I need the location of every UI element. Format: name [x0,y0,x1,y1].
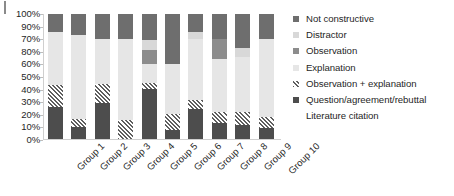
legend-item-label: Observation [306,46,357,56]
legend-swatch-observation-icon [293,48,299,54]
bar-segment [212,59,227,112]
bar-segment [188,39,203,100]
bar-segment [142,50,157,64]
bar-segment [95,39,110,84]
bar-segment [142,89,157,139]
bar-segment [118,120,133,139]
legend-item-label: Distractor [306,30,347,40]
bar-segment [71,35,86,119]
bar-segment [235,125,250,139]
y-axis-tick-label: 30% [2,97,40,107]
bar-group-7[interactable] [188,14,203,139]
bar-segment [48,32,63,86]
bar-segment [259,14,274,39]
legend-item-label: Observation + explanation [306,79,416,89]
bar-group-5[interactable] [142,14,157,139]
bar-segment [188,14,203,32]
legend-item-label: Literature citation [306,111,379,121]
bar-segment [142,40,157,50]
bar-segment [95,84,110,103]
legend-item[interactable]: Not constructive [293,11,454,27]
bar-group-2[interactable] [71,14,86,139]
bar-segment [259,39,274,117]
y-axis-tick-label: 0% [2,135,40,145]
bar-segment [95,14,110,39]
y-axis-tick-mark [40,140,43,141]
legend-swatch-observation-explanation-icon [293,81,299,87]
y-axis-tick-label: 90% [2,22,40,32]
chart-root: 100%90%70%80%60%50%40%30%20%10%0% Group … [0,0,454,196]
legend-swatch-not-constructive-icon [293,16,299,22]
y-axis-tick-label: 100% [2,9,40,19]
bar-segment [188,100,203,109]
legend-item[interactable]: Observation [293,43,454,59]
bar-segment [48,107,63,140]
bar-segment [142,64,157,83]
y-axis-tick-label: 20% [2,110,40,120]
bar-segment [165,14,180,64]
plot-area [44,14,279,139]
legend-item[interactable]: Explanation [293,60,454,76]
bar-segment [165,130,180,139]
legend-swatch-literature-icon [293,113,299,119]
legend-item-label: Not constructive [306,14,374,24]
bar-segment [259,128,274,139]
bar-group-6[interactable] [165,14,180,139]
bar-segment [235,48,250,57]
legend-swatch-explanation-icon [293,65,299,71]
bar-segment [259,117,274,128]
bar-group-9[interactable] [235,14,250,139]
legend-item-label: Explanation [306,63,356,73]
bar-group-container [44,14,279,139]
x-axis-line [43,139,281,140]
bar-segment [235,57,250,112]
bar-segment [118,14,133,39]
bar-segment [118,39,133,120]
y-axis-tick-label: 40% [2,85,40,95]
bar-segment [165,114,180,130]
bar-group-4[interactable] [118,14,133,139]
legend-item[interactable]: Question/agreement/rebuttal [293,92,454,108]
bar-segment [71,127,86,140]
y-axis-tick-label: 60% [2,60,40,70]
bar-segment [71,119,86,127]
bar-group-8[interactable] [212,14,227,139]
y-axis-tick-label: 50% [2,72,40,82]
y-axis-tick-label: 10% [2,123,40,133]
legend-item[interactable]: Observation + explanation [293,76,454,92]
bar-segment [212,39,227,59]
chart-legend: Not constructiveDistractorObservationExp… [293,11,454,124]
bar-group-3[interactable] [95,14,110,139]
legend-swatch-distractor-icon [293,32,299,38]
bar-segment [142,14,157,40]
bar-segment [48,14,63,32]
bar-segment [48,85,63,106]
bar-segment [95,103,110,139]
x-axis-labels: Group 1Group 2Group 3Group 4Group 5Group… [44,141,284,196]
legend-item[interactable]: Literature citation [293,108,454,124]
bar-segment [188,32,203,40]
bar-segment [165,64,180,114]
bar-segment [212,112,227,123]
y-axis-tick-label: 80% [2,47,40,57]
bar-group-10[interactable] [259,14,274,139]
y-axis-tick-label: 70% [2,34,40,44]
legend-item-label: Question/agreement/rebuttal [306,95,426,105]
bar-segment [212,14,227,39]
bar-segment [212,123,227,139]
bar-group-1[interactable] [48,14,63,139]
legend-swatch-question-icon [293,97,299,103]
bar-segment [235,112,250,126]
bar-segment [142,83,157,89]
y-axis-labels: 100%90%70%80%60%50%40%30%20%10%0% [0,8,40,144]
bar-segment [188,109,203,139]
legend-item[interactable]: Distractor [293,27,454,43]
bar-segment [235,14,250,48]
bar-segment [71,14,86,35]
